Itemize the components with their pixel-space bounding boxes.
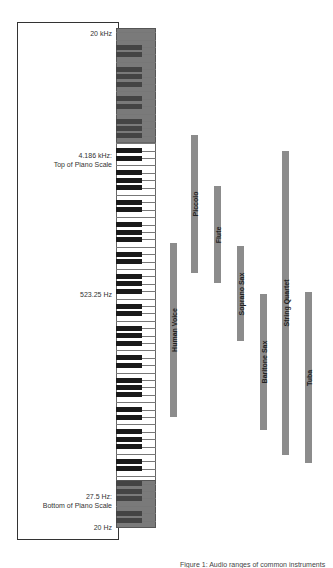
black-key (116, 274, 142, 279)
range-bar-flute: Flute (214, 186, 221, 283)
black-key (116, 496, 142, 501)
white-key-divider (116, 62, 156, 63)
range-bar-piccolo: Piccolo (191, 135, 198, 273)
white-key-divider (116, 40, 156, 41)
white-key-divider (116, 269, 156, 270)
black-key (116, 466, 142, 471)
black-key (116, 355, 142, 360)
black-key (116, 429, 142, 434)
piano-keyboard (116, 28, 156, 528)
figure-caption: Figure 1: Audio ranges of common instrum… (180, 561, 325, 568)
black-key (116, 96, 142, 101)
black-key (116, 45, 142, 50)
black-key (116, 119, 142, 124)
black-key (116, 230, 142, 235)
black-key (116, 341, 142, 346)
black-key (116, 281, 142, 286)
black-key (116, 156, 142, 161)
white-key-divider (116, 247, 156, 248)
label-523hz: 523.25 Hz (80, 290, 112, 299)
black-key (116, 511, 142, 516)
black-key (116, 289, 142, 294)
white-key-divider (116, 91, 156, 92)
white-key-divider (116, 195, 156, 196)
black-key (116, 407, 142, 412)
black-key (116, 74, 142, 79)
black-key (116, 459, 142, 464)
white-key-divider (116, 165, 156, 166)
range-bar-baritone-sax: Baritone Sax (260, 294, 267, 430)
black-key (116, 518, 142, 523)
frequency-label-panel: 20 kHz 4.186 kHz: Top of Piano Scale 523… (17, 22, 119, 540)
range-bar-label: Flute (214, 226, 221, 243)
black-key (116, 67, 142, 72)
black-key (116, 392, 142, 397)
white-key-divider (116, 299, 156, 300)
black-key (116, 126, 142, 131)
range-bar-label: Soprano Sax (237, 272, 244, 315)
black-key (116, 444, 142, 449)
white-key-divider (116, 506, 156, 507)
black-key (116, 170, 142, 175)
range-bar-soprano-sax: Soprano Sax (237, 246, 244, 341)
black-key (116, 82, 142, 87)
label-20khz: 20 kHz (90, 29, 112, 38)
range-bar-label: Baritone Sax (260, 341, 267, 384)
black-key (116, 363, 142, 368)
range-bar-label: Tuba (305, 369, 312, 385)
range-bar-label: Piccolo (191, 192, 198, 217)
range-bar-human-voice: Human Voice (170, 243, 177, 417)
range-bar-string-quartet: String Quartet (282, 151, 289, 455)
label-piano-top: 4.186 kHz: Top of Piano Scale (54, 151, 112, 169)
white-key-divider (116, 476, 156, 477)
white-key-divider (116, 114, 156, 115)
label-piano-bottom: 27.5 Hz: Bottom of Piano Scale (43, 492, 112, 510)
range-bar-tuba: Tuba (305, 292, 312, 463)
black-key (116, 237, 142, 242)
black-key (116, 207, 142, 212)
white-key-divider (116, 143, 156, 144)
white-key-divider (116, 424, 156, 425)
black-key (116, 326, 142, 331)
white-key-divider (116, 402, 156, 403)
white-key-divider (116, 32, 156, 33)
black-key (116, 311, 142, 316)
range-bar-label: String Quartet (282, 279, 289, 326)
white-key-divider (116, 321, 156, 322)
black-key (116, 304, 142, 309)
white-key-divider (116, 373, 156, 374)
black-key (116, 222, 142, 227)
black-key (116, 415, 142, 420)
white-key-divider (116, 454, 156, 455)
black-key (116, 104, 142, 109)
range-bar-label: Human Voice (170, 308, 177, 352)
black-key (116, 133, 142, 138)
black-key (116, 385, 142, 390)
black-key (116, 148, 142, 153)
black-key (116, 259, 142, 264)
black-key (116, 178, 142, 183)
black-key (116, 333, 142, 338)
black-key (116, 252, 142, 257)
white-key-divider (116, 217, 156, 218)
black-key (116, 378, 142, 383)
white-key-divider (116, 350, 156, 351)
black-key (116, 52, 142, 57)
black-key (116, 200, 142, 205)
label-20hz: 20 Hz (94, 523, 112, 532)
black-key (116, 481, 142, 486)
black-key (116, 489, 142, 494)
black-key (116, 437, 142, 442)
black-key (116, 185, 142, 190)
